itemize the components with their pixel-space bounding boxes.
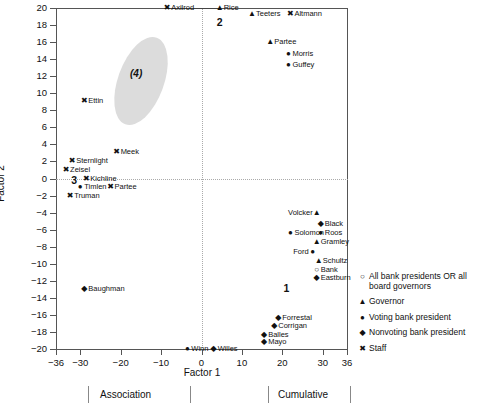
data-point-marker: ● bbox=[310, 248, 315, 256]
legend-marker-icon: ▲ bbox=[356, 297, 369, 307]
y-tick-label: −10 bbox=[31, 259, 47, 269]
y-tick bbox=[50, 144, 56, 145]
y-tick bbox=[50, 264, 56, 265]
y-tick bbox=[50, 42, 56, 43]
y-tick-label: −20 bbox=[31, 344, 47, 354]
data-point-marker: ▲ bbox=[216, 4, 224, 12]
plot-area: (4) −20−18−16−14−12−10−8−6−4−20246810121… bbox=[56, 8, 348, 350]
legend-marker-icon: ✖ bbox=[356, 344, 369, 354]
bottom-strip: AssociationCumulative bbox=[0, 386, 482, 415]
data-point-label: Black bbox=[325, 220, 343, 228]
y-tick-label: −16 bbox=[31, 310, 47, 320]
data-point-marker: ✖ bbox=[107, 183, 114, 191]
x-tick bbox=[121, 349, 122, 355]
data-point-marker: ✖ bbox=[287, 10, 294, 18]
x-tick-label: 36 bbox=[342, 358, 353, 368]
data-point-label: Solomon bbox=[294, 229, 324, 237]
data-point-label: Mayo bbox=[268, 338, 286, 346]
ellipse-label: (4) bbox=[130, 68, 142, 79]
y-tick bbox=[50, 213, 56, 214]
data-point-marker: ▲ bbox=[313, 238, 321, 246]
legend-item: ✖Staff bbox=[356, 344, 482, 354]
y-tick-label: 6 bbox=[42, 123, 47, 133]
data-point-label: Partee bbox=[274, 38, 296, 46]
y-tick bbox=[50, 93, 56, 94]
data-point-marker: ◆ bbox=[211, 345, 217, 353]
data-point-label: Baughman bbox=[88, 286, 124, 294]
legend: ○All bank presidents OR all board govern… bbox=[356, 272, 482, 359]
y-tick-label: −14 bbox=[31, 293, 47, 303]
x-tick bbox=[161, 349, 162, 355]
x-tick bbox=[282, 349, 283, 355]
y-tick-label: 14 bbox=[36, 54, 47, 64]
legend-label: Governor bbox=[369, 297, 404, 307]
x-tick bbox=[80, 349, 81, 355]
y-tick bbox=[50, 8, 56, 9]
legend-label: Staff bbox=[369, 344, 386, 354]
y-tick-label: 18 bbox=[36, 20, 47, 30]
data-point-marker: ● bbox=[286, 50, 291, 58]
y-tick-label: 16 bbox=[36, 37, 47, 47]
x-tick-label: −30 bbox=[72, 358, 88, 368]
cluster-number-label: 3 bbox=[71, 175, 77, 186]
data-point-label: Volcker bbox=[288, 210, 313, 218]
y-tick-label: 4 bbox=[42, 140, 47, 150]
legend-item: ◆Nonvoting bank president bbox=[356, 328, 482, 338]
y-tick-label: −6 bbox=[36, 225, 47, 235]
data-point-marker: ● bbox=[286, 61, 291, 69]
data-point-label: Morris bbox=[292, 50, 313, 58]
data-point-label: Axilrod bbox=[171, 4, 194, 12]
x-axis-title: Factor 1 bbox=[56, 367, 348, 378]
x-tick bbox=[347, 349, 348, 355]
data-point-marker: ✖ bbox=[67, 192, 74, 200]
y-tick bbox=[50, 76, 56, 77]
strip-item-association[interactable]: Association bbox=[100, 389, 151, 401]
y-tick bbox=[50, 281, 56, 282]
data-point-marker: ✖ bbox=[113, 148, 120, 156]
data-point-label: Teeters bbox=[256, 10, 281, 18]
y-tick bbox=[50, 196, 56, 197]
y-tick-label: 0 bbox=[42, 174, 47, 184]
x-tick-label: 30 bbox=[317, 358, 328, 368]
data-point-marker: ● bbox=[288, 229, 293, 237]
data-point-marker: ✖ bbox=[63, 166, 70, 174]
strip-divider bbox=[350, 386, 351, 403]
data-point-marker: ▲ bbox=[266, 38, 274, 46]
y-tick-label: 2 bbox=[42, 157, 47, 167]
y-tick-label: −8 bbox=[36, 242, 47, 252]
legend-label: Nonvoting bank president bbox=[369, 328, 465, 338]
y-tick-label: −18 bbox=[31, 327, 47, 337]
x-tick-label: −36 bbox=[48, 358, 64, 368]
y-tick bbox=[50, 230, 56, 231]
data-point-marker: ▲ bbox=[248, 10, 256, 18]
y-tick bbox=[50, 298, 56, 299]
y-tick-label: 10 bbox=[36, 89, 47, 99]
data-point-marker: ✖ bbox=[164, 4, 171, 12]
legend-marker-icon: ○ bbox=[356, 272, 369, 282]
y-tick-label: −12 bbox=[31, 276, 47, 286]
x-tick bbox=[323, 349, 324, 355]
data-point-marker: ◆ bbox=[81, 285, 87, 293]
x-tick bbox=[56, 349, 57, 355]
y-tick-label: −2 bbox=[36, 191, 47, 201]
x-tick-label: 10 bbox=[237, 358, 248, 368]
y-tick bbox=[50, 110, 56, 111]
cluster-number-label: 1 bbox=[283, 282, 289, 293]
y-tick-label: −4 bbox=[36, 208, 47, 218]
data-point-label: Altmann bbox=[294, 10, 322, 18]
y-tick bbox=[50, 332, 56, 333]
y-tick bbox=[50, 127, 56, 128]
data-point-label: Rice bbox=[224, 4, 239, 12]
strip-item-cumulative[interactable]: Cumulative bbox=[278, 389, 328, 401]
legend-marker-icon: ● bbox=[356, 313, 369, 323]
data-point-label: Willes bbox=[218, 345, 238, 353]
data-point-label: Roos bbox=[325, 229, 343, 237]
data-point-label: Bank bbox=[321, 266, 338, 274]
y-tick bbox=[50, 179, 56, 180]
data-point-label: Meek bbox=[121, 148, 139, 156]
highlight-ellipse bbox=[104, 30, 179, 132]
data-point-label: Partee bbox=[115, 183, 137, 191]
cluster-number-label: 2 bbox=[217, 17, 223, 28]
data-point-label: Schultz bbox=[323, 257, 348, 265]
data-point-label: Ettin bbox=[88, 97, 103, 105]
